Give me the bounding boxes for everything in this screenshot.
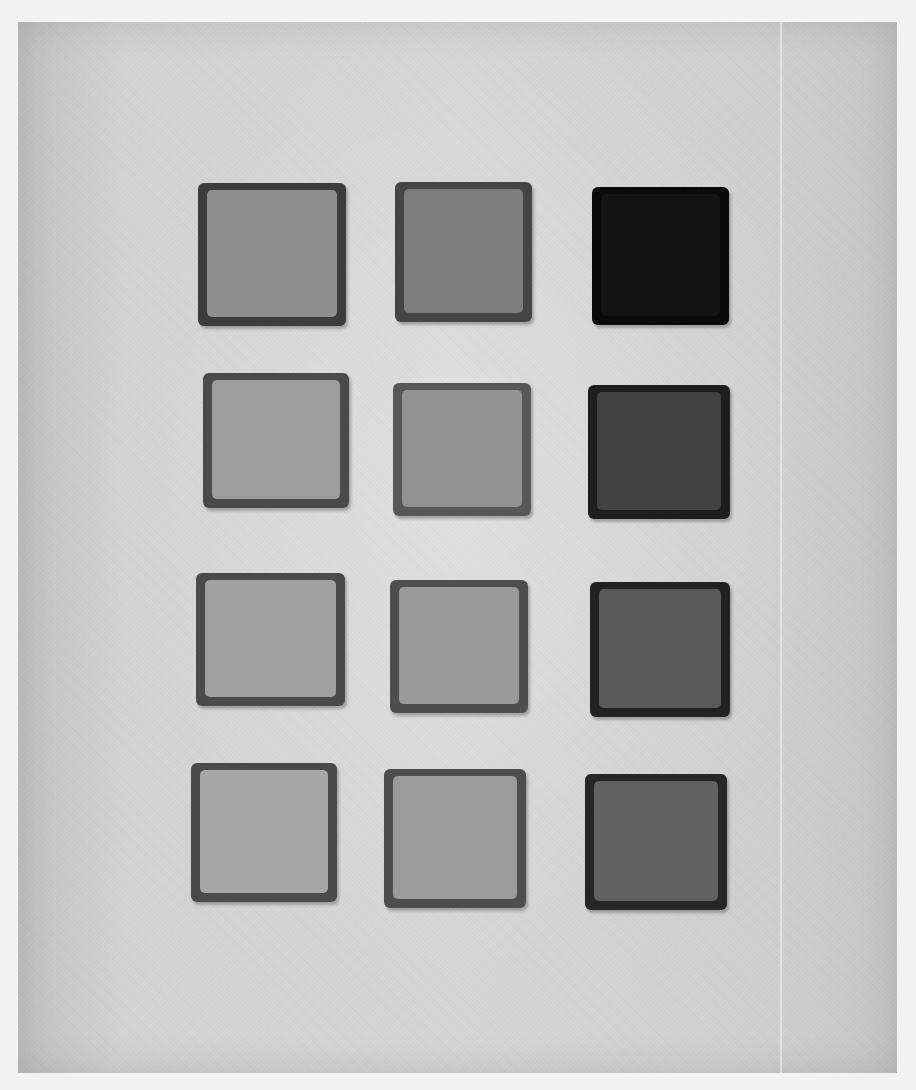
tile-face [200, 770, 328, 893]
tile-face [212, 380, 340, 499]
tile-face [402, 390, 522, 507]
tile-face [393, 776, 517, 899]
photo-background [18, 22, 897, 1073]
tile-r2-c3 [588, 385, 730, 519]
tile-r3-c1 [196, 573, 345, 706]
tile-r4-c1 [191, 763, 337, 902]
tile-face [597, 392, 721, 510]
tile-face [399, 587, 519, 704]
tile-r4-c2 [384, 769, 526, 908]
tile-r3-c2 [390, 580, 528, 713]
tile-r1-c3 [592, 187, 729, 325]
tile-face [601, 194, 720, 316]
paper-crease-line [780, 22, 782, 1073]
tile-r2-c2 [393, 383, 531, 516]
tile-face [207, 190, 337, 317]
tile-face [599, 589, 721, 708]
tile-r4-c3 [585, 774, 727, 910]
tile-face [594, 781, 718, 901]
tile-face [404, 189, 523, 313]
tile-r3-c3 [590, 582, 730, 717]
tile-r2-c1 [203, 373, 349, 508]
tile-face [205, 580, 336, 697]
tile-r1-c2 [395, 182, 532, 322]
tile-r1-c1 [198, 183, 346, 326]
